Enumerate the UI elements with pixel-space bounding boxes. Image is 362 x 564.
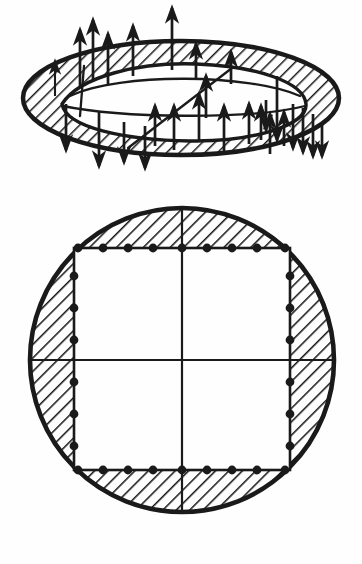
plan-view — [0, 190, 362, 564]
support-dot-right — [286, 304, 295, 313]
support-dot-right — [286, 410, 295, 419]
support-dot-top — [178, 244, 187, 253]
support-dot-right — [286, 272, 295, 281]
support-dot-top — [281, 244, 290, 253]
support-dot-top — [203, 244, 212, 253]
support-dot-bottom — [149, 466, 158, 475]
support-dot-bottom — [281, 466, 290, 475]
support-dot-top — [74, 244, 83, 253]
support-dot-left — [70, 410, 79, 419]
support-dot-top — [228, 244, 237, 253]
support-dot-left — [70, 336, 79, 345]
support-dot-top — [149, 244, 158, 253]
support-dot-left — [70, 272, 79, 281]
perspective-view — [0, 0, 362, 200]
support-dot-bottom — [74, 466, 83, 475]
support-dot-bottom — [124, 466, 133, 475]
support-dot-bottom — [203, 466, 212, 475]
support-dot-top — [99, 244, 108, 253]
support-dot-right — [286, 442, 295, 451]
support-dot-bottom — [228, 466, 237, 475]
support-dot-right — [286, 336, 295, 345]
support-dot-right — [286, 378, 295, 387]
support-dot-bottom — [253, 466, 262, 475]
diagram-canvas — [0, 0, 362, 564]
support-dot-top — [253, 244, 262, 253]
support-dot-left — [70, 378, 79, 387]
support-dot-top — [124, 244, 133, 253]
support-dot-bottom — [178, 466, 187, 475]
support-dot-left — [70, 442, 79, 451]
support-dot-bottom — [99, 466, 108, 475]
support-dot-left — [70, 304, 79, 313]
